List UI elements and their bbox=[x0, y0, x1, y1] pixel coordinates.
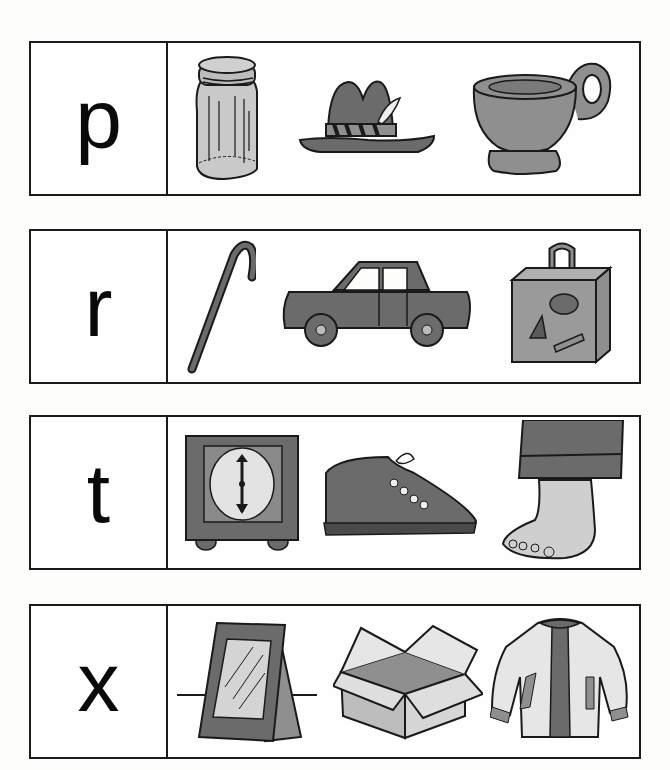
letter-cell: t bbox=[31, 417, 168, 568]
clock-picture[interactable]: clock bbox=[182, 432, 302, 554]
suitcase-icon bbox=[502, 242, 622, 372]
worksheet-row-x: x frame box jac bbox=[29, 604, 641, 759]
frame-picture[interactable]: frame bbox=[177, 617, 327, 747]
cup-icon bbox=[468, 59, 618, 179]
jar-picture[interactable]: jar bbox=[189, 51, 269, 186]
cane-icon bbox=[186, 237, 256, 377]
picture-cell: frame box jacket bbox=[168, 606, 639, 757]
letter-cell: r bbox=[31, 231, 168, 382]
letter-cell: x bbox=[31, 606, 168, 757]
jacket-icon bbox=[490, 617, 630, 747]
car-icon bbox=[279, 252, 479, 362]
car-picture[interactable]: car bbox=[279, 252, 479, 362]
picture-cell: jar hat cup bbox=[168, 43, 639, 194]
foot-icon bbox=[495, 420, 625, 565]
cup-picture[interactable]: cup bbox=[468, 59, 618, 179]
hat-picture[interactable]: hat bbox=[298, 74, 438, 164]
letter-p: p bbox=[75, 77, 122, 161]
foot-picture[interactable]: foot bbox=[495, 420, 625, 565]
letter-cell: p bbox=[31, 43, 168, 194]
picture-cell: clock shoe bbox=[168, 417, 639, 568]
hat-icon bbox=[298, 74, 438, 164]
worksheet-row-t: t clock shoe bbox=[29, 415, 641, 570]
shoe-picture[interactable]: shoe bbox=[318, 443, 478, 543]
box-picture[interactable]: box bbox=[333, 622, 483, 742]
worksheet-row-p: p jar hat cup bbox=[29, 41, 641, 196]
clock-icon bbox=[182, 432, 302, 554]
cardboard-box-icon bbox=[333, 622, 483, 742]
jar-icon bbox=[189, 51, 269, 186]
picture-frame-icon bbox=[177, 617, 327, 747]
suitcase-picture[interactable]: suitcase bbox=[502, 242, 622, 372]
worksheet-row-r: r cane car suitcase bbox=[29, 229, 641, 384]
letter-t: t bbox=[87, 451, 110, 535]
jacket-picture[interactable]: jacket bbox=[490, 617, 630, 747]
cane-picture[interactable]: cane bbox=[186, 237, 256, 377]
picture-cell: cane car suitcase bbox=[168, 231, 639, 382]
shoe-icon bbox=[318, 443, 478, 543]
letter-r: r bbox=[85, 265, 113, 349]
letter-x: x bbox=[78, 640, 120, 724]
